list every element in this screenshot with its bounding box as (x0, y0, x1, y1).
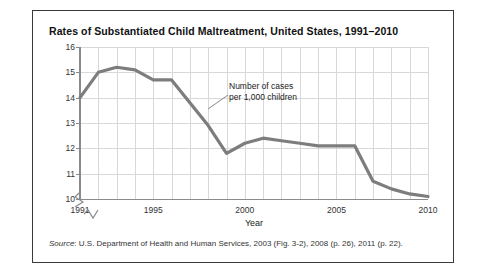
x-tick-label: 2000 (235, 205, 254, 215)
source-note: Source: U.S. Department of Health and Hu… (49, 239, 439, 248)
gridline-vertical (428, 47, 429, 199)
data-line-series (80, 47, 428, 199)
plot-area: 10111213141516 19911995200020052010 (80, 47, 428, 199)
chart-annotation: Number of cases per 1,000 children (229, 81, 297, 103)
y-tick-label: 12 (66, 143, 75, 153)
y-tick-label: 14 (66, 93, 75, 103)
source-label: Source (49, 239, 74, 248)
x-axis-label: Year (80, 218, 428, 228)
x-tick-label: 1995 (144, 205, 163, 215)
annotation-line-2: per 1,000 children (229, 92, 297, 103)
figure-panel: Rates of Substantiated Child Maltreatmen… (32, 10, 454, 263)
y-tick-label: 11 (66, 169, 75, 179)
y-tick-label: 13 (66, 118, 75, 128)
y-tick-label: 16 (66, 42, 75, 52)
source-detail: : U.S. Department of Health and Human Se… (74, 239, 402, 248)
annotation-line-1: Number of cases (229, 81, 297, 92)
chart-title: Rates of Substantiated Child Maltreatmen… (49, 25, 398, 37)
x-tick-label: 2005 (327, 205, 346, 215)
y-tick-label: 15 (66, 67, 75, 77)
x-tick-label: 2010 (419, 205, 438, 215)
